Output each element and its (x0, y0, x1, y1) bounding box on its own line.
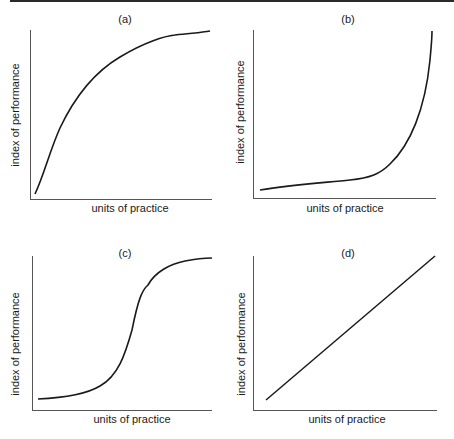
x-axis-label: units of practice (277, 413, 417, 425)
curve-d (266, 256, 435, 400)
y-axis-label: index of performance (235, 274, 247, 414)
panel-d-plot (0, 0, 454, 439)
